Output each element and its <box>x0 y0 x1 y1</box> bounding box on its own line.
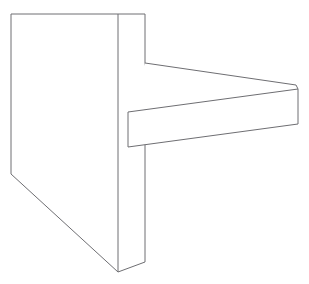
vertical-plate <box>11 14 145 272</box>
drawing-canvas: 3D wireframe line drawing of an L-shaped… <box>0 0 309 284</box>
plate-front-face <box>11 14 118 272</box>
arm-occluder-group <box>128 63 298 147</box>
bracket-line-drawing: 3D wireframe line drawing of an L-shaped… <box>0 0 309 284</box>
